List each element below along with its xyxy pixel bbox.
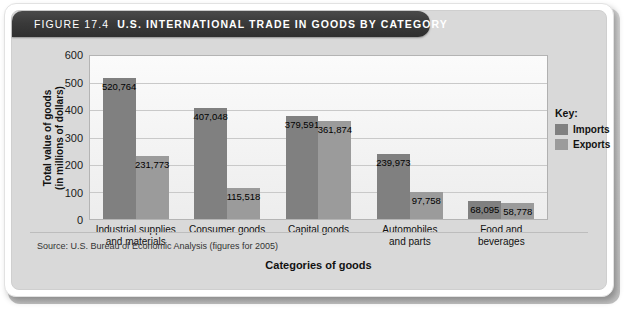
category-label-line: beverages: [478, 236, 525, 248]
source-note: Source: U.S. Bureau of Economic Analysis…: [37, 241, 278, 251]
legend-swatch-exports-icon: [555, 139, 568, 150]
bar-value-label: 407,048: [193, 111, 227, 122]
bar-imports[interactable]: 520,764: [103, 78, 136, 219]
bar-exports[interactable]: 361,874: [318, 121, 351, 219]
bar-value-label: 239,973: [376, 157, 410, 168]
figure-title-text: U.S. INTERNATIONAL TRADE IN GOODS BY CAT…: [117, 18, 448, 30]
bar-value-label: 231,773: [135, 159, 169, 170]
bar-imports[interactable]: 68,095: [468, 201, 501, 219]
bar-value-label: 58,778: [503, 206, 532, 217]
category-label-line: Industrial supplies: [96, 224, 176, 236]
source-divider: [30, 232, 588, 233]
bar-value-label: 68,095: [470, 204, 499, 215]
y-axis-tick-label: 0: [77, 214, 83, 226]
category-label-line: Automobiles: [382, 224, 437, 236]
legend-label-imports: Imports: [573, 124, 610, 135]
bar-imports[interactable]: 407,048: [194, 108, 227, 219]
x-axis-category-label: Consumer goods: [189, 224, 265, 236]
category-label-line: Capital goods: [288, 224, 349, 236]
legend-swatch-imports-icon: [555, 124, 568, 135]
category-label-line: Food and: [478, 224, 525, 236]
figure-inner-panel: FIGURE 17.4 U.S. INTERNATIONAL TRADE IN …: [11, 10, 607, 290]
figure-title-bar: FIGURE 17.4 U.S. INTERNATIONAL TRADE IN …: [12, 11, 430, 37]
figure-number: FIGURE 17.4: [34, 18, 109, 30]
x-axis-category-label: Automobilesand parts: [382, 224, 437, 247]
figure-title: FIGURE 17.4 U.S. INTERNATIONAL TRADE IN …: [12, 18, 448, 30]
bar-exports[interactable]: 97,758: [410, 192, 443, 219]
bars-layer: 520,764231,773Industrial suppliesand mat…: [90, 56, 547, 219]
category-label-line: Consumer goods: [189, 224, 265, 236]
figure-card: FIGURE 17.4 U.S. INTERNATIONAL TRADE IN …: [4, 3, 614, 297]
y-axis-tick-label: 600: [65, 49, 83, 61]
legend-item-imports: Imports: [555, 124, 614, 135]
y-axis-tick-label: 400: [65, 104, 83, 116]
plot-area: 520,764231,773Industrial suppliesand mat…: [89, 55, 548, 220]
bar-exports[interactable]: 231,773: [136, 156, 169, 219]
legend: Key: Imports Exports: [555, 107, 614, 154]
plot-wrapper: 520,764231,773Industrial suppliesand mat…: [89, 55, 548, 220]
bar-group: 407,048115,518Consumer goods: [181, 56, 272, 219]
bar-group: 520,764231,773Industrial suppliesand mat…: [90, 56, 181, 219]
legend-title: Key:: [555, 107, 614, 119]
bar-value-label: 115,518: [227, 191, 261, 202]
bar-exports[interactable]: 115,518: [227, 188, 260, 219]
bar-value-label: 361,874: [318, 124, 352, 135]
y-axis-tick-label: 300: [65, 132, 83, 144]
legend-label-exports: Exports: [573, 139, 610, 150]
y-axis-label-line1: Total value of goods: [42, 89, 53, 185]
bar-exports[interactable]: 58,778: [501, 203, 534, 219]
chart-panel: Total value of goods (in millions of dol…: [21, 41, 597, 259]
y-axis-tick-label: 100: [65, 187, 83, 199]
legend-item-exports: Exports: [555, 139, 614, 150]
bar-value-label: 520,764: [102, 81, 136, 92]
bar-group: 239,97397,758Automobilesand parts: [364, 56, 455, 219]
bar-imports[interactable]: 379,591: [286, 116, 319, 219]
bar-group: 68,09558,778Food andbeverages: [456, 56, 547, 219]
y-axis-tick-label: 200: [65, 159, 83, 171]
bar-value-label: 97,758: [412, 195, 441, 206]
y-axis-tick-label: 500: [65, 77, 83, 89]
x-axis-category-label: Food andbeverages: [478, 224, 525, 247]
bar-value-label: 379,591: [285, 119, 319, 130]
x-axis-label: Categories of goods: [89, 259, 548, 271]
x-axis-category-label: Capital goods: [288, 224, 349, 236]
y-axis-label-line2: (in millions of dollars): [54, 86, 65, 190]
bar-imports[interactable]: 239,973: [377, 154, 410, 219]
category-label-line: and parts: [382, 236, 437, 248]
bar-group: 379,591361,874Capital goods: [273, 56, 364, 219]
